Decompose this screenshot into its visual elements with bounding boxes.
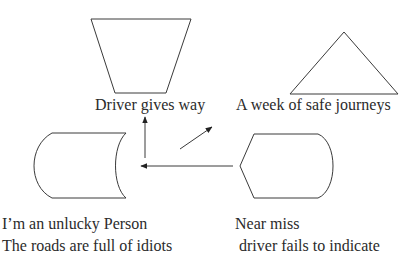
stored-data-shape [34,133,126,198]
driver-gives-way-label: Driver gives way [95,96,205,114]
near-miss-label-line-2: driver fails to indicate [235,237,380,255]
arrow-diagonal-to-safe-journeys [180,127,212,149]
unlucky-person-label-line-2: The roads are full of idiots [2,237,172,255]
trapezoid-shape [91,19,191,93]
safe-journeys-label: A week of safe journeys [236,96,391,114]
near-miss-label-line-1: Near miss [235,215,299,233]
unlucky-person-label-line-1: I’m an unlucky Person [2,215,147,233]
display-shape [240,134,333,198]
triangle-shape [290,32,398,94]
